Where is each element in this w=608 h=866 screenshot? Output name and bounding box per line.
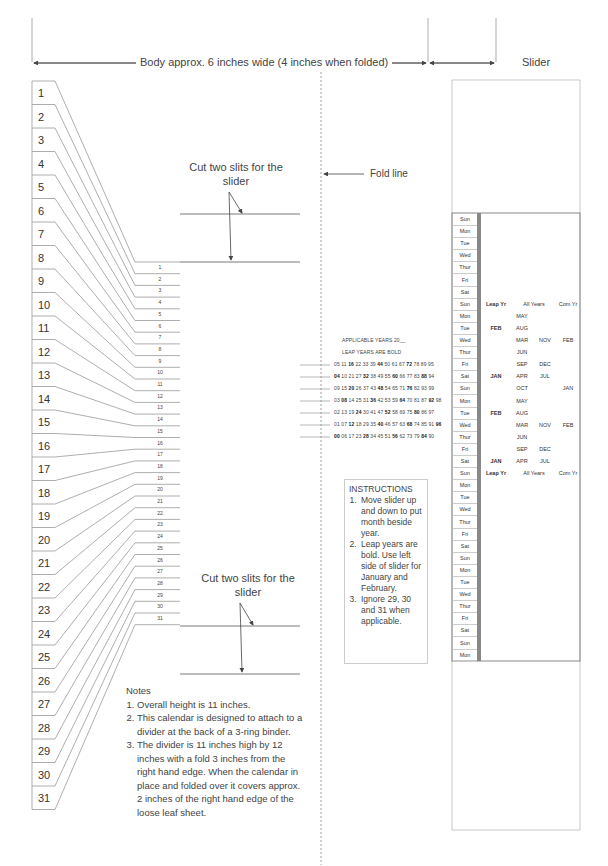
common-year: 41	[370, 409, 377, 415]
note-item: The divider is 11 inches high by 12 inch…	[137, 738, 304, 819]
instructions-box: INSTRUCTIONS Move slider up and down to …	[344, 479, 428, 664]
month: JUL	[533, 371, 557, 382]
day-tab-6: 6	[38, 205, 66, 217]
common-month	[557, 323, 579, 334]
year-row: 05 11 16 22 33 39 44 50 61 67 72 78 89 9…	[334, 361, 434, 367]
slider-day: Sun	[453, 553, 477, 565]
day-tab-28: 28	[38, 722, 66, 734]
leap-month	[483, 432, 509, 443]
day-number: 10	[150, 369, 170, 375]
common-year: 98	[436, 397, 442, 403]
day-number: 8	[150, 346, 170, 352]
notes-title: Notes	[126, 684, 304, 698]
common-year: 25	[356, 397, 363, 403]
day-tab-24: 24	[38, 628, 66, 640]
slider-day: Wed	[453, 504, 477, 516]
day-tab-9: 9	[38, 275, 66, 287]
common-year: 22	[355, 361, 362, 367]
common-month: JAN	[557, 383, 579, 394]
leap-year-header: Leap Yr	[483, 299, 509, 310]
common-year: 38	[370, 373, 377, 379]
slider-day: Tue	[453, 577, 477, 589]
common-month	[557, 444, 579, 455]
common-year: 97	[428, 409, 434, 415]
common-year: 73	[407, 433, 414, 439]
common-year: 75	[407, 409, 414, 415]
leap-year: 96	[436, 421, 442, 427]
day-number: 9	[150, 358, 170, 364]
day-number: 6	[150, 323, 170, 329]
common-month	[557, 311, 579, 322]
day-number: 1	[150, 264, 170, 270]
day-tab-17: 17	[38, 463, 66, 475]
day-tab-19: 19	[38, 510, 66, 522]
day-number: 11	[150, 381, 170, 387]
instruction-item: Leap years are bold. Use left side of sl…	[359, 539, 423, 594]
slider-day: Fri	[453, 529, 477, 541]
slider-day: Thur	[453, 347, 477, 359]
day-tab-2: 2	[38, 111, 66, 123]
common-year: 69	[399, 409, 406, 415]
leap-year: 40	[378, 421, 385, 427]
month: AUG	[511, 408, 533, 419]
month	[533, 311, 557, 322]
common-year: 94	[428, 373, 434, 379]
leap-year: 72	[406, 361, 413, 367]
day-tab-1: 1	[38, 87, 66, 99]
common-year: 62	[399, 433, 406, 439]
leap-year: 48	[378, 385, 385, 391]
common-year: 99	[428, 385, 434, 391]
leap-year: 24	[356, 409, 363, 415]
month	[533, 432, 557, 443]
day-number: 18	[150, 463, 170, 469]
years-title: APPLICABLE YEARS 20__	[342, 337, 405, 343]
common-year: 89	[421, 361, 428, 367]
slider-day: Wed	[453, 335, 477, 347]
slider-width-label: Slider	[518, 56, 554, 68]
slider-day: Thur	[453, 601, 477, 613]
day-tab-21: 21	[38, 557, 66, 569]
day-number: 17	[150, 451, 170, 457]
day-tab-18: 18	[38, 487, 66, 499]
slider-day: Sat	[453, 371, 477, 383]
common-year: 07	[341, 421, 348, 427]
leap-month	[483, 359, 509, 370]
day-number: 25	[150, 545, 170, 551]
fold-line-label: Fold line	[370, 168, 408, 179]
day-number: 24	[150, 533, 170, 539]
day-number: 14	[150, 416, 170, 422]
leap-year: 64	[399, 397, 406, 403]
day-tab-27: 27	[38, 698, 66, 710]
month: APR	[511, 371, 533, 382]
month: JUN	[511, 432, 533, 443]
year-row: 03 08 14 25 31 36 42 53 59 64 70 81 87 9…	[334, 397, 441, 403]
common-year: 77	[407, 373, 414, 379]
slider-day: Tue	[453, 238, 477, 250]
slider-day: Sat	[453, 287, 477, 299]
leap-month: JAN	[483, 371, 509, 382]
month: MAR	[511, 335, 533, 346]
day-tab-5: 5	[38, 181, 66, 193]
month: MAY	[511, 311, 533, 322]
day-tab-14: 14	[38, 393, 66, 405]
leap-month	[483, 383, 509, 394]
common-year: 63	[399, 421, 406, 427]
day-tab-31: 31	[38, 792, 66, 804]
leap-month: FEB	[483, 323, 509, 334]
day-number: 19	[150, 475, 170, 481]
leap-year: 36	[370, 397, 377, 403]
day-tab-10: 10	[38, 299, 66, 311]
slider-day: Tue	[453, 408, 477, 420]
leap-month: JAN	[483, 456, 509, 467]
common-month	[557, 359, 579, 370]
day-number: 30	[150, 603, 170, 609]
day-number: 20	[150, 486, 170, 492]
day-tab-22: 22	[38, 581, 66, 593]
common-year: 43	[370, 385, 377, 391]
month	[533, 408, 557, 419]
leap-month: FEB	[483, 408, 509, 419]
day-number: 7	[150, 334, 170, 340]
slider-day: Mon	[453, 650, 477, 662]
common-year: 06	[341, 433, 348, 439]
day-number: 23	[150, 521, 170, 527]
